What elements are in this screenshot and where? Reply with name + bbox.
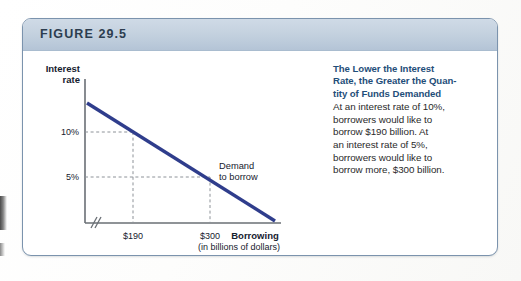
scan-edge-artifact xyxy=(0,196,7,230)
chart-area: 10% 5% $190 $300 Interest rate Borrowing… xyxy=(23,51,323,256)
ytick-label-10: 10% xyxy=(61,127,79,137)
caption-title-line2: Rate, the Greater the Quan- xyxy=(333,75,456,86)
xtick-label-190: $190 xyxy=(123,231,143,241)
caption-title: The Lower the Interest Rate, the Greater… xyxy=(333,63,485,100)
demand-curve-label-line2: to borrow xyxy=(219,172,258,182)
demand-curve-chart: 10% 5% $190 $300 Interest rate Borrowing… xyxy=(23,51,323,256)
scan-edge-artifact-lower xyxy=(0,243,5,256)
caption-title-line1: The Lower the Interest xyxy=(333,63,434,74)
caption-body-line1: At an interest rate of 10%, xyxy=(333,101,445,112)
caption-body-line5: borrowers would like to xyxy=(333,152,432,163)
caption-body-line6: borrow more, $300 billion. xyxy=(333,164,444,175)
demand-curve-label-line1: Demand xyxy=(219,161,254,171)
xtick-label-300: $300 xyxy=(200,231,220,241)
caption-title-line3: tity of Funds Demanded xyxy=(333,88,441,99)
guide-5-percent xyxy=(85,177,210,223)
x-axis-title: Borrowing xyxy=(231,230,279,241)
y-axis-title-line2: rate xyxy=(63,74,80,85)
y-axis-title-line1: Interest xyxy=(46,63,81,74)
caption-body-line3: borrow $190 billion. At xyxy=(333,126,428,137)
caption-body: At an interest rate of 10%, borrowers wo… xyxy=(333,101,485,177)
figure-container: FIGURE 29.5 1 xyxy=(22,18,498,256)
x-axis-subtitle: (in billions of dollars) xyxy=(198,242,280,252)
caption-body-line2: borrowers would like to xyxy=(333,114,432,125)
caption-body-line4: an interest rate of 5%, xyxy=(333,139,428,150)
figure-caption: The Lower the Interest Rate, the Greater… xyxy=(333,63,485,177)
figure-label: FIGURE 29.5 xyxy=(40,27,127,41)
ytick-label-5: 5% xyxy=(66,172,79,182)
